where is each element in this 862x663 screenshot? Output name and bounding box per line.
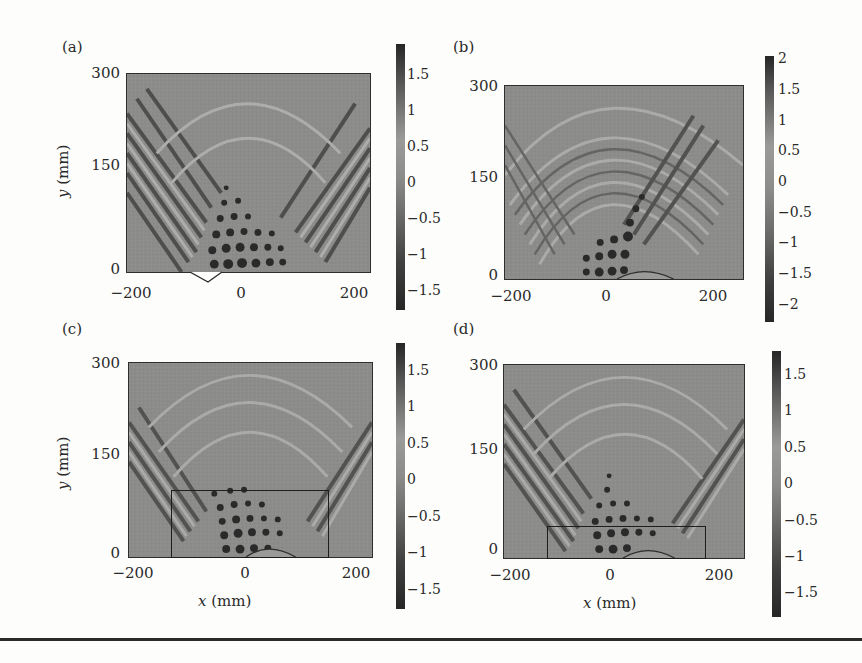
colorbar-tick: 1.5 — [407, 363, 429, 377]
colorbar-tick: 0.5 — [407, 436, 429, 450]
colorbar-tick: −1 — [778, 235, 799, 249]
colorbar-tick: −1 — [407, 545, 428, 559]
colorbar-tick: 1.5 — [778, 82, 800, 96]
colorbar-tick: 0.5 — [407, 139, 429, 153]
colorbar-a — [396, 44, 405, 310]
x-tick-0: 0 — [581, 289, 631, 304]
panel-label-a: (a) — [62, 40, 83, 55]
heatmap-plot-b — [504, 85, 744, 280]
colorbar-b — [765, 56, 774, 322]
notch-shape-a — [190, 268, 230, 286]
colorbar-tick: −1 — [784, 549, 805, 563]
y-tick-150: 150 — [458, 170, 498, 185]
x-tick-200: 200 — [688, 289, 738, 304]
heatmap-plot-a — [126, 73, 371, 273]
x-axis-label: x (mm) — [583, 594, 636, 612]
page-divider-rule — [0, 638, 862, 641]
x-tick-m200: −200 — [486, 289, 536, 304]
region-rectangle-d — [547, 526, 706, 559]
colorbar-tick: −1.5 — [778, 266, 812, 280]
x-tick-m200: −200 — [485, 568, 535, 583]
y-tick-300: 300 — [458, 79, 498, 94]
colorbar-tick: 0 — [784, 476, 793, 490]
x-axis-label: x (mm) — [198, 592, 251, 610]
x-tick-200: 200 — [694, 568, 744, 583]
x-tick-m200: −200 — [106, 286, 156, 301]
y-tick-300: 300 — [80, 356, 120, 371]
y-tick-0: 0 — [458, 542, 498, 557]
x-tick-m200: −200 — [108, 566, 158, 581]
x-tick-200: 200 — [331, 566, 381, 581]
colorbar-tick: −0.5 — [407, 211, 441, 225]
y-tick-300: 300 — [80, 66, 120, 81]
colorbar-tick: 0.5 — [784, 440, 806, 454]
y-tick-150: 150 — [80, 158, 120, 173]
colorbar-tick: 1 — [407, 103, 416, 117]
colorbar-c — [396, 343, 405, 609]
panel-label-c: (c) — [62, 322, 82, 337]
panel-label-b: (b) — [453, 40, 474, 55]
colorbar-tick: 0 — [407, 472, 416, 486]
y-tick-300: 300 — [458, 358, 498, 373]
colorbar-tick: 1 — [407, 399, 416, 413]
colorbar-tick: −1.5 — [784, 585, 818, 599]
y-axis-label: y (mm) — [54, 437, 72, 490]
x-tick-200: 200 — [329, 286, 379, 301]
colorbar-tick: 0.5 — [778, 143, 800, 157]
colorbar-tick: 1.5 — [407, 67, 429, 81]
colorbar-tick: −1.5 — [407, 283, 441, 297]
colorbar-tick: −0.5 — [407, 509, 441, 523]
colorbar-tick: −0.5 — [778, 205, 812, 219]
x-tick-0: 0 — [216, 286, 266, 301]
colorbar-tick: 1 — [784, 403, 793, 417]
colorbar-tick: 0 — [407, 175, 416, 189]
colorbar-tick: −2 — [778, 297, 799, 311]
x-tick-0: 0 — [585, 568, 635, 583]
wave-field-a — [127, 74, 370, 272]
colorbar-tick: −1 — [407, 247, 428, 261]
x-tick-0: 0 — [220, 566, 270, 581]
y-tick-150: 150 — [80, 447, 120, 462]
colorbar-tick: 1.5 — [784, 367, 806, 381]
colorbar-tick: −1.5 — [407, 582, 441, 596]
y-tick-0: 0 — [458, 268, 498, 283]
colorbar-tick: −0.5 — [784, 513, 818, 527]
wave-field-b — [505, 86, 743, 279]
y-axis-label: y (mm) — [54, 145, 72, 198]
panel-label-d: (d) — [453, 322, 474, 337]
colorbar-tick: 0 — [778, 174, 787, 188]
y-tick-0: 0 — [80, 546, 120, 561]
colorbar-tick: 2 — [778, 51, 787, 65]
region-rectangle-c — [171, 490, 329, 558]
colorbar-tick: 1 — [778, 113, 787, 127]
colorbar-d — [772, 351, 781, 617]
y-tick-150: 150 — [458, 442, 498, 457]
y-tick-0: 0 — [80, 262, 120, 277]
